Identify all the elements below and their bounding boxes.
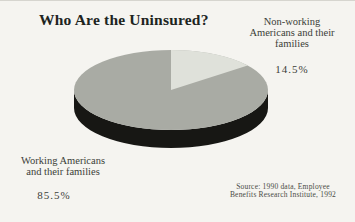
- nonworking-label-line1: Non-working: [229, 16, 355, 27]
- working-label-line1: Working Americans: [2, 155, 124, 166]
- nonworking-label-line2: Americans and their: [229, 27, 355, 38]
- chart-title: Who Are the Uninsured?: [39, 11, 239, 29]
- source-note-line2: Benefits Research Institute, 1992: [212, 191, 354, 199]
- working-percent-value: 85.5%: [2, 189, 106, 201]
- callout-working-label: Working Americans and their families: [2, 155, 124, 177]
- uninsured-pie-figure: Who Are the Uninsured? Non-working Ameri…: [0, 0, 355, 222]
- working-label-line2: and their families: [2, 166, 124, 177]
- nonworking-percent-value: 14.5%: [229, 63, 355, 75]
- source-note: Source: 1990 data, Employee Benefits Res…: [212, 183, 354, 199]
- nonworking-label-line3: families: [229, 38, 355, 49]
- callout-nonworking-label: Non-working Americans and their families: [229, 16, 355, 49]
